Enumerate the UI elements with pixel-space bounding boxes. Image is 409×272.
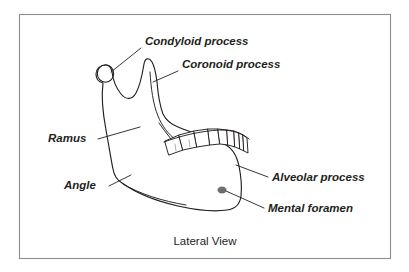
label-ramus: Ramus bbox=[48, 132, 86, 144]
label-angle: Angle bbox=[63, 179, 97, 191]
figure-caption: Lateral View bbox=[173, 235, 237, 247]
label-condyloid-process: Condyloid process bbox=[145, 35, 249, 47]
label-alveolar-process: Alveolar process bbox=[271, 171, 365, 183]
label-mental-foramen: Mental foramen bbox=[268, 202, 353, 214]
figure-container: Condyloid process Coronoid process Ramus… bbox=[0, 0, 409, 272]
mandible-lateral-view-diagram: Condyloid process Coronoid process Ramus… bbox=[0, 0, 409, 272]
label-coronoid-process: Coronoid process bbox=[182, 58, 280, 70]
tooth-premolar-1 bbox=[218, 129, 228, 145]
mental-foramen-marker bbox=[218, 187, 226, 193]
